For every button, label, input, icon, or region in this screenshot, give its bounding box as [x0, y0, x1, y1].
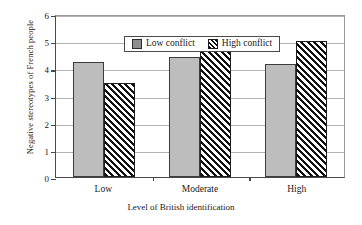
y-tick	[51, 179, 56, 180]
bar	[296, 41, 327, 177]
y-tick-label: 3	[45, 93, 50, 102]
legend-swatch-icon-low-conflict	[132, 39, 142, 49]
plot-area: 0123456 Low conflict High conflict	[55, 15, 345, 178]
x-tick	[153, 177, 154, 181]
y-tick-label: 5	[45, 39, 50, 48]
x-axis-title: Level of British identification	[0, 202, 362, 212]
bar	[104, 83, 135, 177]
bar-chart: Negative stereotypes of French people 01…	[0, 0, 362, 225]
bar	[265, 64, 296, 177]
y-tick-label: 0	[45, 175, 50, 184]
legend-swatch-icon-high-conflict	[208, 39, 218, 49]
y-tick-label: 4	[45, 66, 50, 75]
legend-label-high-conflict: High conflict	[222, 39, 272, 49]
y-tick-label: 2	[45, 120, 50, 129]
legend-label-low-conflict: Low conflict	[146, 39, 195, 49]
x-tick-label: Moderate	[145, 184, 255, 194]
y-tick-label: 1	[45, 147, 50, 156]
x-tick-label: High	[242, 184, 352, 194]
bar	[200, 49, 231, 177]
y-tick-label: 6	[45, 12, 50, 21]
bar	[169, 57, 200, 177]
x-tick-label: Low	[48, 184, 158, 194]
legend: Low conflict High conflict	[124, 36, 280, 52]
legend-item-low-conflict: Low conflict	[132, 39, 195, 49]
legend-item-high-conflict: High conflict	[208, 39, 272, 49]
x-tick	[249, 177, 250, 181]
y-axis-title: Negative stereotypes of French people	[25, 0, 35, 177]
bar	[73, 62, 104, 177]
